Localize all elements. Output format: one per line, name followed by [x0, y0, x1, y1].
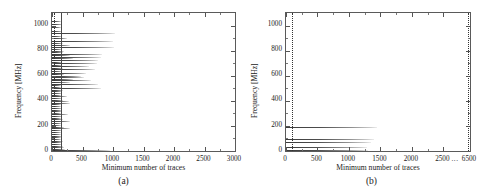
data-bar — [52, 60, 98, 61]
x-minor-tick — [302, 149, 303, 151]
y-tick — [231, 126, 235, 127]
y-minor-tick — [233, 113, 235, 114]
x-tick — [380, 13, 381, 17]
data-bar — [52, 63, 97, 64]
x-tick — [317, 147, 318, 151]
data-bar — [52, 58, 73, 59]
x-tick — [470, 13, 471, 17]
data-bar — [52, 79, 73, 80]
panel-a-x-axis-title: Minimum number of traces — [51, 163, 236, 172]
y-minor-tick — [52, 63, 54, 64]
x-tick — [235, 147, 236, 151]
panel-b: 02004006008001000 0500100015002000250065… — [248, 0, 495, 196]
x-minor-tick — [220, 13, 221, 15]
x-minor-tick — [428, 149, 429, 151]
y-tick — [231, 26, 235, 27]
y-tick-label: 800 — [271, 46, 282, 53]
x-minor-tick — [365, 13, 366, 15]
panel-a: 02004006008001000 0500100015002000250030… — [0, 0, 247, 196]
y-tick — [286, 101, 290, 102]
x-minor-tick — [396, 13, 397, 15]
y-tick-label: 600 — [37, 71, 48, 78]
data-bar — [286, 127, 377, 128]
x-minor-tick — [428, 13, 429, 15]
y-minor-tick — [468, 38, 470, 39]
panel-b-caption: (b) — [248, 176, 495, 186]
x-minor-tick — [67, 13, 68, 15]
panel-b-plot-area — [285, 12, 471, 152]
y-tick-label: 0 — [278, 147, 282, 154]
y-tick — [466, 51, 470, 52]
data-bar — [52, 73, 86, 74]
y-minor-tick — [233, 63, 235, 64]
x-minor-tick — [333, 149, 334, 151]
y-tick — [466, 101, 470, 102]
x-minor-tick — [189, 13, 190, 15]
x-tick — [83, 147, 84, 151]
x-tick — [174, 147, 175, 151]
x-tick — [83, 13, 84, 17]
y-minor-tick — [233, 38, 235, 39]
x-tick — [144, 13, 145, 17]
data-bar — [52, 66, 89, 67]
y-tick — [231, 151, 235, 152]
panel-b-y-tick-labels: 02004006008001000 — [256, 12, 282, 152]
y-minor-tick — [52, 88, 54, 89]
panel-b-y-axis-title: Frequency [MHz] — [250, 63, 259, 118]
x-tick — [205, 147, 206, 151]
x-tick — [443, 147, 444, 151]
x-tick — [443, 13, 444, 17]
y-tick-label: 200 — [271, 122, 282, 129]
y-minor-tick — [468, 113, 470, 114]
panel-a-plot-area — [51, 12, 236, 152]
x-tick — [113, 147, 114, 151]
x-tick — [144, 147, 145, 151]
y-tick-label: 0 — [44, 147, 48, 154]
x-minor-tick — [365, 149, 366, 151]
data-bar — [52, 76, 81, 77]
x-minor-tick — [128, 13, 129, 15]
x-tick — [286, 147, 287, 151]
y-tick — [231, 76, 235, 77]
data-bar — [52, 54, 102, 55]
figure-container: 02004006008001000 0500100015002000250030… — [0, 0, 495, 196]
y-tick — [466, 76, 470, 77]
x-minor-tick — [333, 13, 334, 15]
y-minor-tick — [286, 88, 288, 89]
y-minor-tick — [286, 63, 288, 64]
x-tick — [412, 147, 413, 151]
y-tick — [52, 126, 56, 127]
y-minor-tick — [468, 88, 470, 89]
x-tick — [174, 13, 175, 17]
y-tick-label: 400 — [37, 96, 48, 103]
y-minor-tick — [468, 63, 470, 64]
y-tick — [231, 51, 235, 52]
y-tick — [286, 26, 290, 27]
y-tick — [466, 126, 470, 127]
x-minor-tick — [159, 149, 160, 151]
x-tick — [470, 147, 471, 151]
data-bar — [286, 150, 368, 151]
panel-a-caption: (a) — [0, 176, 247, 186]
reference-line — [61, 13, 62, 151]
y-tick — [286, 126, 290, 127]
x-minor-tick — [220, 149, 221, 151]
reference-line — [468, 13, 469, 151]
x-tick — [286, 13, 287, 17]
y-tick — [286, 76, 290, 77]
x-tick — [235, 13, 236, 17]
y-minor-tick — [52, 38, 54, 39]
x-minor-tick — [98, 149, 99, 151]
x-minor-tick — [189, 149, 190, 151]
y-tick-label: 1000 — [34, 21, 48, 28]
x-minor-tick — [396, 149, 397, 151]
y-tick — [52, 101, 56, 102]
y-tick — [466, 26, 470, 27]
y-tick — [286, 151, 290, 152]
data-bar — [286, 139, 374, 140]
y-tick-label: 800 — [37, 46, 48, 53]
data-bar — [286, 142, 371, 143]
y-minor-tick — [286, 38, 288, 39]
reference-line — [54, 13, 55, 151]
y-minor-tick — [52, 138, 54, 139]
